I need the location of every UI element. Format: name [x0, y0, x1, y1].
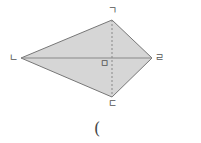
vertex-label-left: ㄴ — [9, 53, 18, 63]
answer-paren: ( — [94, 121, 100, 137]
vertex-label-right: ㄹ — [155, 53, 164, 63]
kite-diagram — [0, 0, 201, 143]
vertex-label-top: ㄱ — [108, 6, 117, 16]
vertex-label-bottom: ㄷ — [108, 99, 117, 109]
center-label: ㅁ — [100, 59, 109, 69]
